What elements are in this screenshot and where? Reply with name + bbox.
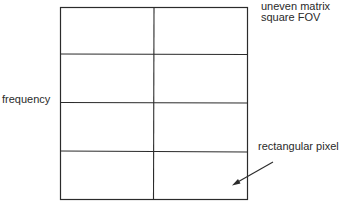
grid-row-divider-3 xyxy=(60,151,248,152)
matrix-grid xyxy=(0,0,345,209)
callout-arrow-icon xyxy=(232,162,273,186)
grid-row-divider-1 xyxy=(61,54,248,55)
label-rectangular-pixel: rectangular pixel xyxy=(258,140,339,152)
grid-row-divider-2 xyxy=(61,103,248,104)
label-square-fov: square FOV xyxy=(261,11,320,23)
label-frequency: frequency xyxy=(2,93,50,105)
grid-column-divider xyxy=(154,8,155,200)
